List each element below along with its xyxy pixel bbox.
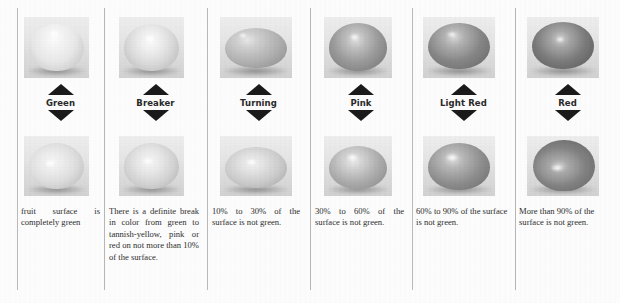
arrow-up-icon xyxy=(48,84,74,95)
arrow-up-icon xyxy=(451,84,477,95)
stage-description: 60% to 90% of the surface is not green. xyxy=(416,206,514,229)
stage-description: 30% to 60% of the surface is not green. xyxy=(315,206,404,229)
stage-top-photo xyxy=(24,17,89,78)
arrow-down-icon xyxy=(555,110,581,121)
scan-grain xyxy=(324,17,392,78)
stage-column-turning: Turning 10% to 30% of the surface is not… xyxy=(207,0,310,303)
stage-column-breaker: Breaker There is a definite break in col… xyxy=(104,0,207,303)
stage-label: Light Red xyxy=(440,97,487,109)
stage-top-photo xyxy=(324,17,392,78)
stage-description: 10% to 30% of the surface is not green. xyxy=(212,206,300,229)
scan-grain xyxy=(220,17,292,78)
stage-bottom-photo xyxy=(119,136,184,196)
stage-top-photo xyxy=(220,17,292,78)
scan-grain xyxy=(324,136,392,196)
arrow-up-icon xyxy=(246,84,272,95)
arrow-up-icon xyxy=(555,84,581,95)
stage-arrows-turning: Turning xyxy=(207,84,310,121)
stage-label: Turning xyxy=(240,97,277,109)
arrow-down-icon xyxy=(143,110,169,121)
scan-grain xyxy=(423,136,495,196)
arrow-down-icon xyxy=(246,110,272,121)
stage-column-red: Red More than 90% of the surface is not … xyxy=(515,0,620,303)
scan-grain xyxy=(423,17,495,78)
stage-description: More than 90% of the surface is not gree… xyxy=(519,206,619,229)
scan-grain xyxy=(24,17,89,78)
scan-grain xyxy=(24,136,89,196)
stage-description: There is a definite break in color from … xyxy=(109,206,199,263)
stage-description: fruit surface is completely green xyxy=(21,206,100,229)
stage-bottom-photo xyxy=(24,136,89,196)
scan-grain xyxy=(220,136,292,196)
arrow-up-icon xyxy=(348,84,374,95)
scan-grain xyxy=(527,17,599,78)
stage-bottom-photo xyxy=(324,136,392,196)
stage-label: Breaker xyxy=(136,97,174,109)
stage-top-photo xyxy=(527,17,599,78)
stage-bottom-photo xyxy=(220,136,292,196)
stage-label: Pink xyxy=(350,97,371,109)
stage-column-light-red: Light Red 60% to 90% of the surface is n… xyxy=(412,0,515,303)
scan-grain xyxy=(119,136,184,196)
scan-grain xyxy=(119,17,184,78)
arrow-down-icon xyxy=(48,110,74,121)
stage-arrows-red: Red xyxy=(515,84,620,121)
stage-bottom-photo xyxy=(527,136,599,196)
stage-arrows-light-red: Light Red xyxy=(412,84,515,121)
stage-label: Green xyxy=(46,97,75,109)
stage-top-photo xyxy=(119,17,184,78)
stage-column-green: Green fruit surface is completely green xyxy=(17,0,104,303)
stage-column-pink: Pink 30% to 60% of the surface is not gr… xyxy=(310,0,412,303)
arrow-down-icon xyxy=(451,110,477,121)
arrow-down-icon xyxy=(348,110,374,121)
stage-arrows-green: Green xyxy=(17,84,104,121)
stage-label: Red xyxy=(558,97,577,109)
arrow-up-icon xyxy=(143,84,169,95)
scan-grain xyxy=(527,136,599,196)
stage-top-photo xyxy=(423,17,495,78)
stage-arrows-breaker: Breaker xyxy=(104,84,207,121)
stage-arrows-pink: Pink xyxy=(310,84,412,121)
stage-bottom-photo xyxy=(423,136,495,196)
tomato-ripeness-stage-figure: Green fruit surface is completely green … xyxy=(0,0,620,303)
